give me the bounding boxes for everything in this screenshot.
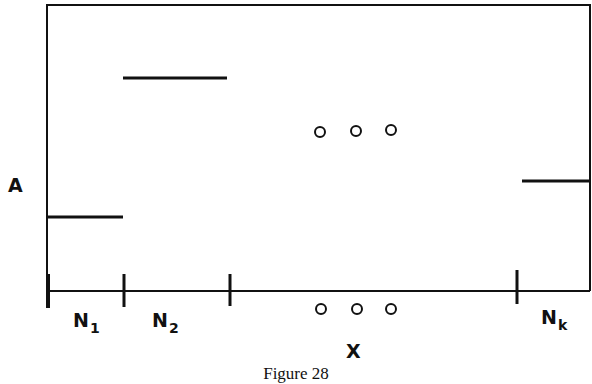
ellipsis-axis-icon: [316, 304, 396, 314]
interval-label-nk: Nk: [541, 306, 567, 328]
interval-label-sub: k: [558, 317, 567, 333]
y-axis-label: A: [8, 174, 23, 196]
interval-label-n1: N1: [73, 309, 100, 331]
interval-label-main: N: [541, 306, 557, 328]
interval-label-n2: N2: [152, 309, 179, 331]
ellipsis-plot-icon: [315, 125, 396, 137]
interval-label-main: N: [152, 309, 168, 331]
frame-border: [47, 5, 590, 291]
figure-caption: Figure 28: [0, 364, 592, 384]
interval-label-main: N: [73, 309, 89, 331]
interval-label-sub: 2: [169, 320, 179, 336]
interval-label-sub: 1: [90, 320, 100, 336]
x-axis-label: X: [346, 340, 361, 362]
